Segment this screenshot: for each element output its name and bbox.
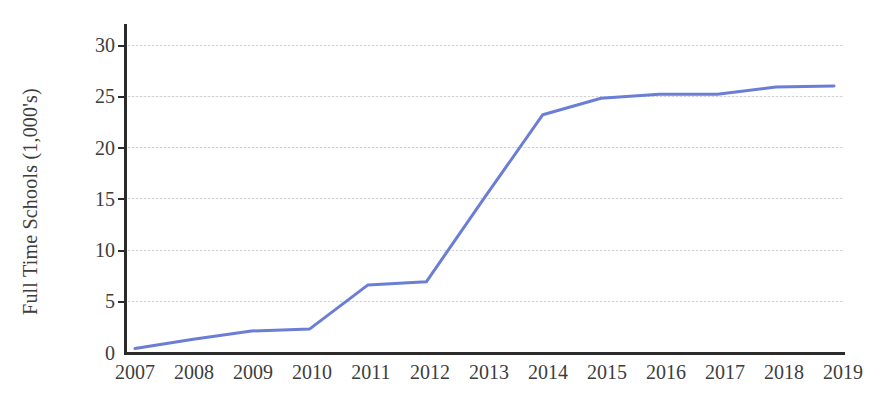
y-tick-mark-5	[118, 301, 125, 303]
y-axis-line	[124, 24, 127, 355]
y-tick-label-0: 0	[75, 343, 115, 363]
y-tick-label-5: 5	[75, 291, 115, 311]
y-tick-label-25: 25	[75, 86, 115, 106]
gridline-30	[124, 45, 844, 46]
plot-area	[124, 24, 844, 353]
y-tick-mark-15	[118, 198, 125, 200]
y-tick-mark-30	[118, 45, 125, 47]
y-tick-label-30: 30	[75, 35, 115, 55]
gridline-5	[124, 301, 844, 302]
line-chart: Full Time Schools (1,000's) 30 25 20 15 …	[0, 0, 894, 403]
gridline-20	[124, 147, 844, 148]
y-tick-label-15: 15	[75, 189, 115, 209]
y-axis-tick-labels: 30 25 20 15 10 5 0	[70, 0, 115, 403]
gridline-15	[124, 198, 844, 199]
x-tick-label-2019: 2019	[808, 362, 878, 382]
y-axis-title: Full Time Schools (1,000's)	[0, 0, 60, 403]
x-axis-line	[124, 352, 845, 355]
y-tick-mark-20	[118, 147, 125, 149]
y-tick-label-20: 20	[75, 138, 115, 158]
gridline-25	[124, 96, 844, 97]
gridline-10	[124, 250, 844, 251]
y-tick-mark-25	[118, 96, 125, 98]
y-tick-label-10: 10	[75, 240, 115, 260]
y-tick-mark-10	[118, 250, 125, 252]
